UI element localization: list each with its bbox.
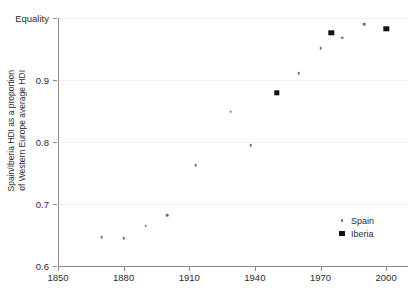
x-axis-tick <box>321 267 322 271</box>
data-point-spain <box>341 37 344 40</box>
y-axis-tick-label: 0.7 <box>36 199 49 210</box>
data-point-spain <box>100 236 103 239</box>
chart-legend: Spain Iberia <box>336 214 374 240</box>
x-axis-tick-label: 1850 <box>47 272 68 283</box>
x-axis-tick <box>255 267 256 271</box>
data-point-spain <box>166 214 169 217</box>
x-axis-tick-label: 1910 <box>179 272 200 283</box>
x-axis-tick-label: 2000 <box>376 272 397 283</box>
x-axis-tick <box>386 267 387 271</box>
x-axis-tick-label: 1880 <box>113 272 134 283</box>
y-axis-tick <box>53 266 57 267</box>
gridline-y <box>58 80 408 81</box>
y-axis-title-line-1: Spain/Iberia HDI as a proportion <box>6 70 16 191</box>
x-axis-tick-label: 1970 <box>310 272 331 283</box>
data-point-spain <box>297 72 300 75</box>
x-axis-tick <box>189 267 190 271</box>
y-axis-tick <box>53 204 57 205</box>
data-point-spain <box>122 237 125 240</box>
iberia-marker-icon <box>336 231 348 236</box>
legend-item-iberia[interactable]: Iberia <box>336 227 374 240</box>
spain-marker-icon <box>336 219 348 222</box>
data-point-spain <box>319 47 322 50</box>
data-point-spain <box>249 144 252 147</box>
x-axis-line <box>58 266 408 267</box>
legend-label-iberia: Iberia <box>351 229 374 239</box>
y-axis-line <box>58 18 59 268</box>
gridline-y <box>58 18 408 19</box>
data-point-iberia <box>274 90 279 95</box>
y-axis-tick-label: Equality <box>15 13 49 24</box>
gridline-y <box>58 142 408 143</box>
x-axis-tick <box>124 267 125 271</box>
y-axis-tick-label: 0.8 <box>36 137 49 148</box>
y-axis-tick <box>53 80 57 81</box>
data-point-iberia <box>383 26 388 31</box>
y-axis-tick-label: 0.9 <box>36 75 49 86</box>
legend-item-spain[interactable]: Spain <box>336 214 374 227</box>
y-axis-tick-label: 0.6 <box>36 261 49 272</box>
y-axis-title-line-2: of Western Europe average HDI <box>17 70 27 191</box>
data-point-spain <box>363 23 366 26</box>
x-axis-tick <box>58 267 59 271</box>
y-axis-tick <box>53 142 57 143</box>
gridline-y <box>58 204 408 205</box>
data-point-spain <box>230 110 233 113</box>
data-point-spain <box>144 224 147 227</box>
y-axis-title: Spain/Iberia HDI as a proportion of West… <box>0 0 30 302</box>
data-point-iberia <box>329 30 334 35</box>
scatter-chart-figure: Spain/Iberia HDI as a proportion of West… <box>0 0 420 302</box>
x-axis-tick-label: 1940 <box>244 272 265 283</box>
data-point-spain <box>195 164 198 167</box>
y-axis-tick <box>53 18 57 19</box>
legend-label-spain: Spain <box>351 216 374 226</box>
